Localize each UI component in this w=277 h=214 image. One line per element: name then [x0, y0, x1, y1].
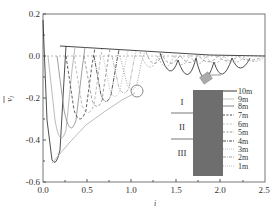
highlight-circle: [131, 85, 143, 97]
zone-label: I: [181, 97, 184, 107]
upper-envelope: [60, 46, 265, 56]
legend-label: 2m: [238, 153, 249, 162]
y-tick-label: 0.2: [29, 9, 40, 19]
svg-text:vl: vl: [4, 96, 15, 102]
legend-label: 7m: [238, 111, 249, 120]
sensor-icon: [200, 67, 221, 86]
y-tick-label: -0.2: [26, 93, 40, 103]
series-10m: [43, 20, 66, 162]
x-tick-label: 0.5: [81, 185, 93, 195]
legend-label: 5m: [238, 128, 249, 137]
x-tick-label: 2.0: [214, 185, 226, 195]
legend-label: 1m: [238, 162, 249, 171]
y-tick-label: 0.0: [29, 51, 41, 61]
chart-container: 0.2 0.0 -0.2 -0.4 -0.6 0.0 0.5 1.0 1.5 2…: [0, 0, 277, 214]
x-axis-label: i: [154, 199, 156, 208]
x-axis: 0.0 0.5 1.0 1.5 2.0 2.5 i: [37, 179, 270, 208]
series-4m: [94, 50, 119, 102]
y-tick-label: -0.4: [26, 135, 41, 145]
x-tick-label: 2.5: [258, 185, 270, 195]
x-tick-label: 0.0: [37, 185, 49, 195]
series-5m: [84, 49, 110, 107]
soil-block: [193, 90, 223, 176]
x-tick-label: 1.5: [170, 185, 182, 195]
y-axis-label: vl: [4, 96, 15, 103]
trough-envelope: [52, 93, 135, 163]
zone-label: III: [178, 148, 187, 158]
legend-inset: I II III 10m 9m 8m 7m 6m 5m 4m 3m 2m 1m: [171, 87, 253, 176]
legend-label: 8m: [238, 102, 249, 111]
x-tick-label: 1.0: [125, 185, 137, 195]
zone-label: II: [179, 122, 185, 132]
